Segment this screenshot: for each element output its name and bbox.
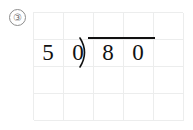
grid-cell	[154, 13, 184, 40]
grid-cell	[64, 67, 94, 94]
grid-cell	[34, 67, 64, 94]
division-bracket-icon	[79, 37, 92, 68]
grid-cell	[34, 13, 64, 40]
grid-cell	[34, 94, 64, 121]
grid-cell	[124, 13, 154, 40]
dividend-digit-ones: 0	[123, 39, 153, 66]
divisor-digit-tens: 5	[33, 39, 63, 66]
grid-cell	[64, 94, 94, 121]
grid-cell	[94, 94, 124, 121]
long-division-expression: 5 0 8 0	[33, 39, 183, 66]
worksheet-sheet: ③ 5 0 8 0	[0, 0, 193, 130]
grid-cell	[124, 67, 154, 94]
grid-cell	[154, 67, 184, 94]
worksheet-grid	[33, 12, 183, 120]
grid-cell	[94, 67, 124, 94]
grid-cell	[64, 13, 94, 40]
grid-cell	[94, 13, 124, 40]
grid-cell	[154, 94, 184, 121]
dividend-digit-tens: 8	[93, 39, 123, 66]
grid-cell	[124, 94, 154, 121]
problem-number-badge: ③	[9, 9, 26, 26]
